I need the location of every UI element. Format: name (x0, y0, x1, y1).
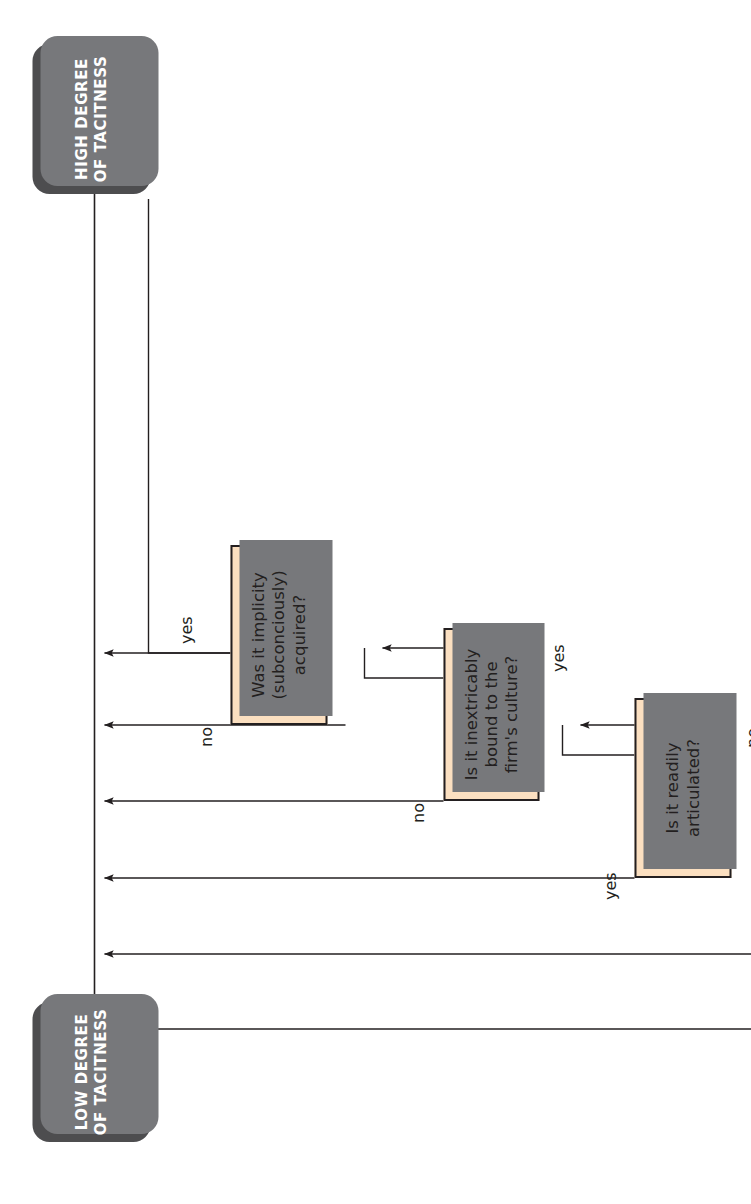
node-5-line-3: acquired? (289, 570, 309, 699)
terminal-low-line2: OF TACITNESS (91, 1009, 110, 1136)
edge-label-n4-yes: yes (548, 644, 567, 672)
edge-label-n3-yes: yes (600, 872, 619, 900)
feeder-4 (364, 648, 443, 678)
decision-node-is-it-readily-articulated: Is it readily articulated? (634, 698, 731, 878)
rotated-artboard: LOW DEGREE OF TACITNESS HIGH DEGREE OF T… (0, 0, 751, 1204)
node-3-line-1: Is it readily (662, 739, 682, 837)
terminal-high-line2: OF TACITNESS (91, 56, 110, 183)
node-4-line-3: firm's culture? (501, 649, 521, 781)
node-4-line-1: Is it inextricably (461, 649, 481, 781)
terminal-low-degree: LOW DEGREE OF TACITNESS (32, 1002, 150, 1142)
edge-label-n4-no: no (408, 803, 427, 823)
diagram-canvas: LOW DEGREE OF TACITNESS HIGH DEGREE OF T… (0, 0, 751, 1204)
node-3-line-2: articulated? (683, 739, 703, 837)
decision-node-was-it-implicitly-acquired: Was it implicity (subconciously) acquire… (230, 545, 327, 725)
terminal-high-degree: HIGH DEGREE OF TACITNESS (32, 44, 150, 194)
edge-label-n5-no: no (196, 727, 215, 747)
feeder-3 (562, 725, 634, 755)
decision-node-bound-to-firms-culture: Is it inextricably bound to the firm's c… (443, 628, 539, 801)
terminal-low-line1: LOW DEGREE (72, 1009, 91, 1136)
node-5-line-1: Was it implicity (248, 570, 268, 699)
edge-label-n3-no: no (742, 728, 751, 748)
edge-label-n5-yes: yes (176, 616, 195, 644)
terminal-high-line1: HIGH DEGREE (72, 56, 91, 183)
node-5-line-2: (subconciously) (268, 570, 288, 699)
path-n5-yes-to-high (148, 199, 230, 653)
node-4-line-2: bound to the (481, 649, 501, 781)
